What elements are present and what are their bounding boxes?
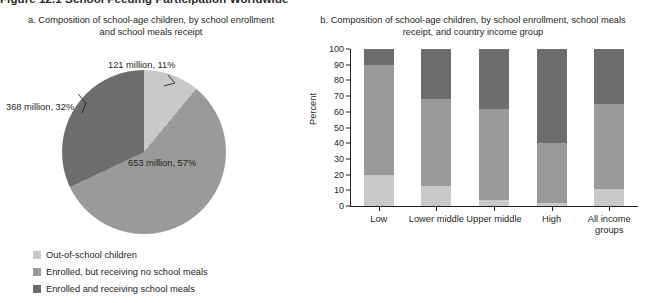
bar-segment [364, 175, 394, 206]
y-axis-tick-label: 0 [310, 201, 344, 211]
y-axis-tick-label: 50 [310, 123, 344, 133]
x-axis-tick-mark [609, 207, 610, 211]
x-axis-tick-mark [552, 207, 553, 211]
x-axis-tick-mark [436, 207, 437, 211]
bar-segment [594, 49, 624, 104]
legend-panel-a: Out-of-school children Enrolled, but rec… [33, 250, 208, 301]
bar-stack [479, 49, 509, 206]
bar-chart-plot: Percent 0102030405060708090100 LowLower … [300, 49, 645, 224]
legend-item: Enrolled and receiving school meals [33, 284, 208, 294]
y-axis-tick-label: 80 [310, 75, 344, 85]
bar-segment [594, 189, 624, 206]
y-axis-tick-labels: 0102030405060708090100 [310, 49, 344, 206]
y-axis-tick-label: 60 [310, 107, 344, 117]
bar-segment [364, 49, 394, 65]
legend-label: Enrolled, but receiving no school meals [46, 267, 208, 277]
pie-slice-label-enrolled-with-meals: 368 million, 32% [6, 102, 74, 113]
figure-title: Figure 12.1 School Feeding Participation… [0, 0, 289, 5]
y-axis-tick-label: 20 [310, 170, 344, 180]
y-axis-tick-label: 30 [310, 154, 344, 164]
y-axis-tick-label: 10 [310, 185, 344, 195]
pie-slice-label-out-of-school: 121 million, 11% [108, 60, 176, 71]
pie-chart-wrap [62, 70, 226, 234]
panel-a-pie-chart: a. Composition of school-age children, b… [0, 10, 300, 303]
bar-group [350, 49, 638, 206]
bar-segment [537, 49, 567, 143]
panel-b-title: b. Composition of school-age children, b… [308, 15, 638, 38]
bar-segment [479, 200, 509, 206]
x-axis-tick-marks [350, 207, 638, 211]
bar-segment [594, 104, 624, 189]
x-axis-tick-label: All incomegroups [574, 214, 644, 236]
legend-label: Out-of-school children [46, 250, 137, 260]
legend-label: Enrolled and receiving school meals [46, 284, 195, 294]
y-axis-tick-label: 100 [310, 44, 344, 54]
legend-swatch-enrolled-no-meals-icon [33, 268, 41, 276]
bar-segment [421, 186, 451, 206]
bar-segment [479, 49, 509, 109]
panel-a-title: a. Composition of school-age children, b… [20, 15, 282, 38]
legend-item: Enrolled, but receiving no school meals [33, 267, 208, 277]
pie-slice-label-enrolled-no-meals: 653 million, 57% [128, 158, 196, 169]
bar-segment [537, 203, 567, 206]
bar-segment [421, 99, 451, 185]
bar-stack [537, 49, 567, 206]
bar-segment [364, 65, 394, 175]
pie-chart [62, 70, 226, 234]
y-axis-tick-label: 90 [310, 60, 344, 70]
y-axis-tick-label: 70 [310, 91, 344, 101]
bar-segment [537, 143, 567, 203]
bar-segment [421, 49, 451, 99]
bar-stack [594, 49, 624, 206]
x-axis-tick-mark [494, 207, 495, 211]
legend-swatch-enrolled-with-meals-icon [33, 285, 41, 293]
bar-stack [364, 49, 394, 206]
panel-b-bar-chart: b. Composition of school-age children, b… [300, 10, 645, 303]
y-axis-tick-label: 40 [310, 138, 344, 148]
x-axis-tick-labels: LowLower middleUpper middleHighAll incom… [350, 214, 645, 244]
bar-segment [479, 109, 509, 200]
bar-stack [421, 49, 451, 206]
legend-swatch-out-of-school-icon [33, 251, 41, 259]
x-axis-tick-mark [379, 207, 380, 211]
legend-item: Out-of-school children [33, 250, 208, 260]
